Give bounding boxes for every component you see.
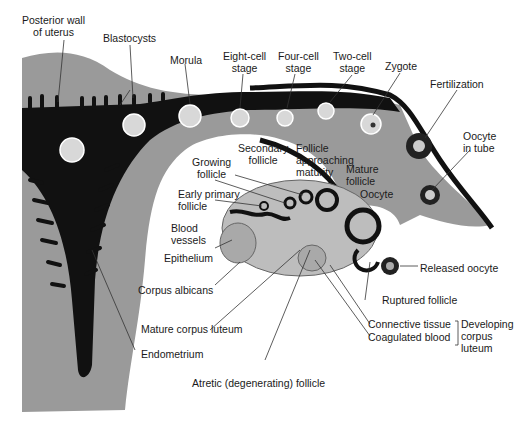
label-blood-vessels: Bloodvessels — [171, 222, 206, 246]
label-fertilization: Fertilization — [430, 78, 484, 90]
label-secondary-follicle: Secondaryfollicle — [238, 142, 288, 166]
label-four-cell: Four-cellstage — [278, 50, 319, 74]
label-ruptured-follicle: Ruptured follicle — [382, 294, 457, 306]
label-morula: Morula — [170, 54, 202, 66]
two-cell — [318, 103, 334, 119]
label-mature-follicle: Maturefollicle — [346, 163, 379, 187]
label-epithelium: Epithelium — [164, 252, 213, 264]
label-released-oocyte: Released oocyte — [420, 262, 498, 274]
label-endometrium: Endometrium — [141, 348, 203, 360]
label-eight-cell: Eight-cellstage — [223, 50, 266, 74]
eight-cell — [231, 109, 249, 127]
label-coagulated-blood: Coagulated blood — [368, 331, 450, 343]
blastocyst-2 — [60, 138, 84, 162]
label-two-cell: Two-cellstage — [333, 50, 372, 74]
blastocyst-1 — [123, 114, 145, 136]
label-corpus-albicans: Corpus albicans — [138, 284, 213, 296]
four-cell — [277, 110, 293, 126]
label-atretic-follicle: Atretic (degenerating) follicle — [192, 377, 325, 389]
ovarian-cycle-diagram: Posterior wallof uterus Blastocysts Moru… — [0, 0, 528, 424]
morula — [179, 105, 201, 127]
label-blastocysts: Blastocysts — [103, 32, 156, 44]
label-developing-corpus-luteum: Developingcorpusluteum — [461, 318, 514, 354]
label-zygote: Zygote — [385, 60, 417, 72]
label-growing-follicle: Growingfollicle — [192, 156, 231, 180]
label-connective-tissue: Connective tissue — [368, 318, 451, 330]
label-posterior-wall: Posterior wallof uterus — [22, 14, 85, 38]
label-oocyte-in-tube: Oocytein tube — [463, 130, 496, 154]
label-mature-corpus-luteum: Mature corpus luteum — [141, 323, 243, 335]
label-oocyte: Oocyte — [360, 188, 393, 200]
label-early-primary: Early primaryfollicle — [178, 188, 240, 212]
